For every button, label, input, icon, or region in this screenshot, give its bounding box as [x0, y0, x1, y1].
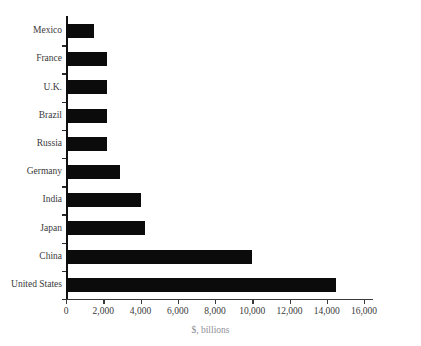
y-axis-tick-label: Japan [4, 223, 62, 233]
y-axis-tick-label: France [4, 53, 62, 63]
x-axis-tick [215, 299, 216, 304]
x-axis-tick [290, 299, 291, 304]
x-axis-tick-label: 8,000 [204, 306, 225, 316]
bar [66, 52, 107, 66]
bar-row [66, 186, 364, 214]
x-axis-tick [103, 299, 104, 304]
x-axis-tick-label: 2,000 [93, 306, 114, 316]
x-axis-tick-label: 6,000 [167, 306, 188, 316]
bar-row [66, 214, 364, 242]
x-axis-tick-label: 14,000 [314, 306, 340, 316]
x-axis-title: $, billions [0, 325, 421, 335]
y-axis-tick-label: Russia [4, 138, 62, 148]
x-axis-tick [252, 299, 253, 304]
y-axis-tick-label: Mexico [4, 25, 62, 35]
y-axis-tick-label: Brazil [4, 110, 62, 120]
bar-row [66, 102, 364, 130]
bar-row [66, 45, 364, 73]
x-axis-tick-label: 16,000 [351, 306, 377, 316]
x-axis-tick [141, 299, 142, 304]
y-axis-tick-label: United States [4, 279, 62, 289]
bar [66, 165, 120, 179]
x-axis-tick-label: 4,000 [130, 306, 151, 316]
y-axis-tick-label: Germany [4, 166, 62, 176]
bar [66, 221, 145, 235]
bar [66, 80, 107, 94]
x-axis-tick-label: 0 [64, 306, 69, 316]
x-axis-tick-label: 10,000 [239, 306, 265, 316]
bar [66, 24, 94, 38]
y-axis-tick-label: India [4, 194, 62, 204]
bar-row [66, 130, 364, 158]
x-axis-tick-label: 12,000 [276, 306, 302, 316]
x-axis-tick [178, 299, 179, 304]
bar-row [66, 17, 364, 45]
plot-area [66, 17, 364, 299]
bar [66, 109, 107, 123]
bar [66, 250, 252, 264]
bar [66, 278, 336, 292]
bar [66, 193, 141, 207]
bar-row [66, 158, 364, 186]
y-axis-tick-label: China [4, 251, 62, 261]
x-axis-tick [66, 299, 67, 304]
bar-row [66, 271, 364, 299]
bar-chart-figure: MexicoFranceU.K.BrazilRussiaGermanyIndia… [0, 0, 421, 346]
x-axis-tick [364, 299, 365, 304]
bar [66, 137, 107, 151]
bar-row [66, 243, 364, 271]
y-axis-tick-label: U.K. [4, 82, 62, 92]
bar-row [66, 73, 364, 101]
y-axis-tick-labels: MexicoFranceU.K.BrazilRussiaGermanyIndia… [0, 17, 62, 299]
x-axis-tick [327, 299, 328, 304]
chart-title [8, 0, 413, 3]
